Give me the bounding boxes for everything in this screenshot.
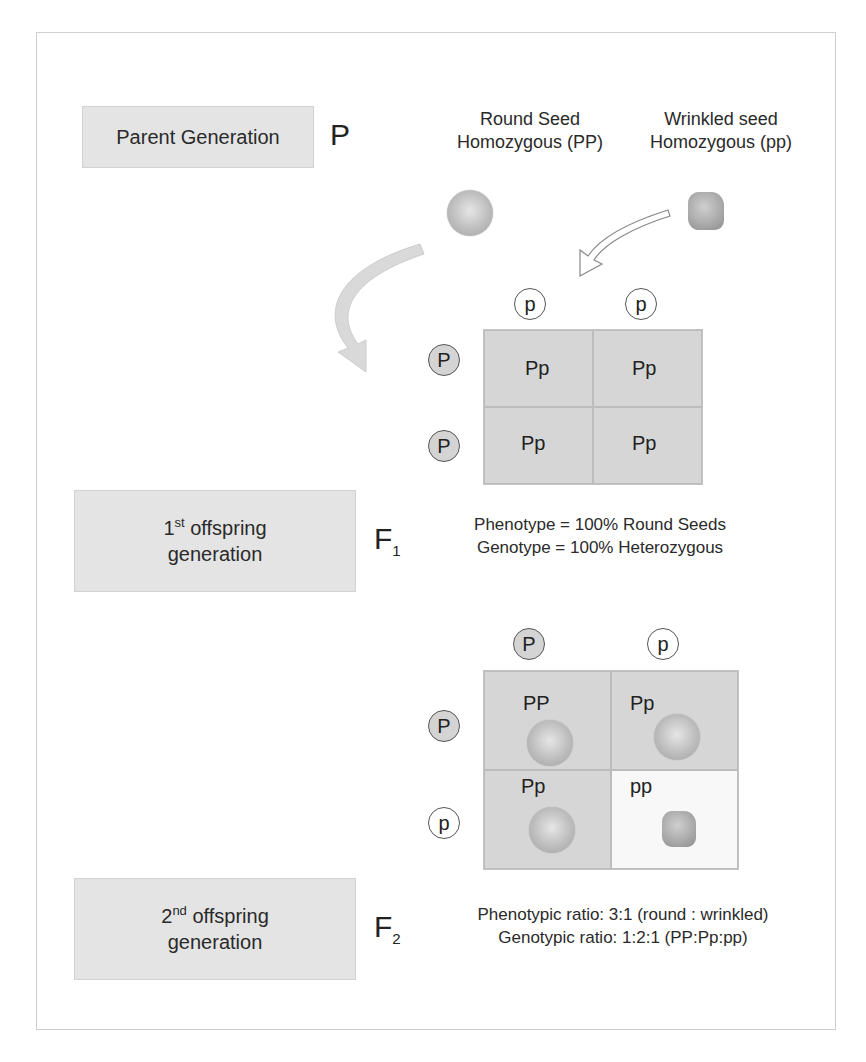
round-seed-label: Round Seed Homozygous (PP): [450, 108, 610, 155]
wrinkled-seed-label: Wrinkled seed Homozygous (pp): [636, 108, 806, 155]
f1-row-allele: P: [428, 344, 460, 376]
phenotype-text: Phenotype = 100% Round Seeds: [410, 514, 790, 537]
f2-column-allele: P: [513, 628, 545, 660]
wrinkled-seed-icon: [688, 192, 724, 230]
punnett-cell: Pp: [484, 407, 593, 484]
round-seed-icon: [654, 714, 700, 760]
punnett-cell: Pp: [484, 330, 593, 407]
punnett-cell: Pp: [593, 330, 702, 407]
first-offspring-box: 1st offspring generation: [74, 490, 356, 592]
f1-punnett-square: Pp Pp Pp Pp: [483, 329, 703, 485]
genotypic-ratio-text: Genotypic ratio: 1:2:1 (PP:Pp:pp): [418, 927, 828, 950]
wrinkled-seed-icon: [662, 811, 696, 847]
f2-row-allele: P: [428, 710, 460, 742]
first-offspring-summary: Phenotype = 100% Round Seeds Genotype = …: [410, 514, 790, 560]
f1-row-allele: P: [428, 430, 460, 462]
f2-punnett-square: PP Pp Pp pp: [483, 670, 739, 870]
parent-generation-box: Parent Generation: [82, 106, 314, 168]
punnett-cell: pp: [611, 770, 738, 869]
f1-column-allele: p: [514, 288, 546, 320]
parent-generation-symbol: P: [330, 118, 350, 152]
phenotypic-ratio-text: Phenotypic ratio: 3:1 (round : wrinkled): [418, 904, 828, 927]
punnett-cell: Pp: [611, 671, 738, 770]
punnett-cell: Pp: [593, 407, 702, 484]
round-seed-icon: [447, 190, 493, 236]
f2-column-allele: p: [647, 628, 679, 660]
first-offspring-symbol: F1: [374, 522, 401, 559]
parent-generation-label: Parent Generation: [116, 124, 279, 150]
f1-column-allele: p: [625, 288, 657, 320]
f2-row-allele: p: [428, 807, 460, 839]
genotype-text: Genotype = 100% Heterozygous: [410, 537, 790, 560]
punnett-cell: Pp: [484, 770, 611, 869]
second-offspring-summary: Phenotypic ratio: 3:1 (round : wrinkled)…: [418, 904, 828, 950]
round-seed-icon: [529, 807, 575, 853]
punnett-cell: PP: [484, 671, 611, 770]
round-seed-icon: [527, 720, 573, 766]
second-offspring-symbol: F2: [374, 910, 401, 947]
second-offspring-box: 2nd offspring generation: [74, 878, 356, 980]
